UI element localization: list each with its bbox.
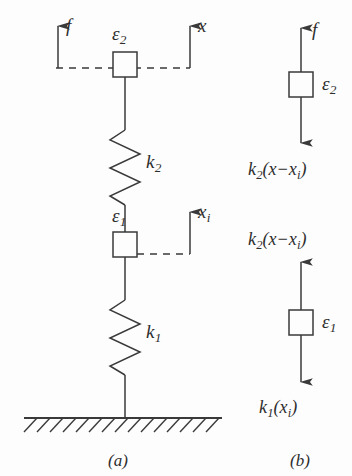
label-fbd-element-epsilon2: ε2 <box>322 74 336 96</box>
label-fbd-force-f: f <box>312 20 317 39</box>
spring-k2 <box>110 130 140 205</box>
caption-panel-b: (b) <box>290 451 310 471</box>
caption-panel-a: (a) <box>108 451 128 471</box>
label-fbd-bottom-force-up: k2(x−xi) <box>248 230 306 251</box>
element-box-epsilon1-panel-a <box>113 232 137 257</box>
label-displacement-xi: xi <box>198 202 210 224</box>
fbd-element-box-epsilon1 <box>289 310 313 335</box>
fbd-element-box-epsilon2 <box>289 72 313 97</box>
label-fbd-top-force-down: k2(x−xi) <box>248 160 306 181</box>
label-element-epsilon2-panel-a: ε2 <box>112 24 126 46</box>
spring-k1 <box>110 300 140 375</box>
mechanics-figure: f x ε2 k2 ε1 xi k1 (a) f ε2 k2(x−xi) k2(… <box>0 0 352 476</box>
label-spring-k2: k2 <box>146 152 161 174</box>
element-box-epsilon2-panel-a <box>113 52 137 77</box>
ground-hatching <box>24 418 219 432</box>
label-element-epsilon1-panel-a: ε1 <box>112 206 126 228</box>
label-spring-k1: k1 <box>146 322 161 344</box>
label-fbd-bottom-force-down: k1(xi) <box>259 398 297 419</box>
label-fbd-element-epsilon1: ε1 <box>322 312 336 334</box>
label-displacement-x: x <box>198 16 206 35</box>
label-force-f-panel-a: f <box>66 16 71 35</box>
